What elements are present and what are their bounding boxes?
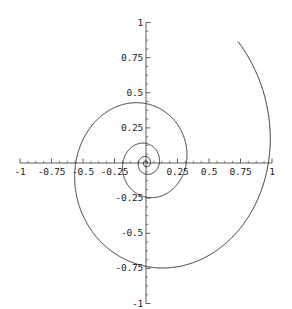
- x-tick-label: 1: [269, 167, 275, 177]
- x-tick-label: -0.25: [101, 167, 129, 177]
- y-tick-label: -1: [132, 299, 143, 309]
- y-tick-label: -0.25: [115, 193, 143, 203]
- x-tick-label: -1: [14, 167, 25, 177]
- x-tick-label: 0.5: [201, 167, 218, 177]
- y-tick-label: 0.75: [121, 53, 143, 63]
- y-tick-label: -0.5: [121, 229, 143, 239]
- spiral-curve: [75, 42, 271, 268]
- y-tick-label: 0.25: [121, 123, 143, 133]
- x-tick-label: 0.75: [229, 167, 251, 177]
- y-tick-label: 0.5: [126, 88, 143, 98]
- y-tick-label: -0.75: [115, 264, 143, 274]
- axes-group: [20, 23, 272, 304]
- y-tick-label: 1: [137, 18, 143, 28]
- x-tick-label: -0.75: [38, 167, 66, 177]
- x-tick-label: 0.25: [166, 167, 188, 177]
- x-tick-label: -0.5: [72, 167, 94, 177]
